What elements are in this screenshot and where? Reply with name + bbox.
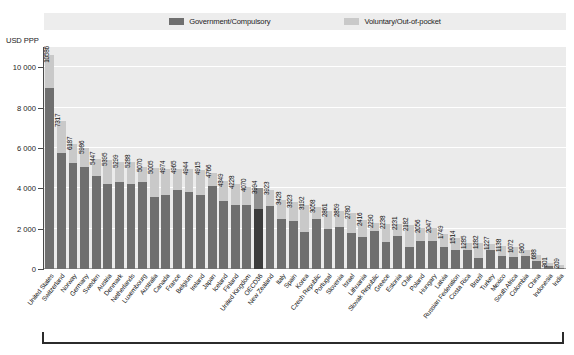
bar-column[interactable]: 3923	[264, 47, 276, 269]
bar-stack: 2290	[370, 223, 379, 269]
bar-column[interactable]: 209	[554, 47, 566, 269]
x-axis-label[interactable]: India	[552, 273, 566, 288]
bar-value-label: 2231	[391, 216, 397, 229]
bar-column[interactable]: 4070	[241, 47, 253, 269]
bar-column[interactable]: 7317	[56, 47, 68, 269]
bar-stack: 7317	[57, 121, 66, 269]
bar-stack: 4766	[208, 173, 217, 269]
bar-column[interactable]: 2780	[345, 47, 357, 269]
bar-column[interactable]: 4766	[206, 47, 218, 269]
bar-value-label: 2416	[356, 213, 362, 226]
bar-stack: 5070	[138, 167, 147, 269]
y-tick-label-6000: 6 000	[0, 143, 36, 152]
bar-column[interactable]: 4944	[183, 47, 195, 269]
bar-segment-government	[474, 258, 483, 269]
bar-stack: 5447	[92, 159, 101, 269]
bar-column[interactable]: 2231	[392, 47, 404, 269]
bar-column[interactable]: 301	[543, 47, 555, 269]
bar-column[interactable]: 2182	[403, 47, 415, 269]
bar-column[interactable]: 3323	[287, 47, 299, 269]
bar-column[interactable]: 1282	[473, 47, 485, 269]
bar-value-label: 5070	[136, 159, 142, 172]
bar-column[interactable]: 2416	[357, 47, 369, 269]
y-tick-mark-6000	[38, 148, 43, 149]
bar-value-label: 3192	[298, 197, 304, 210]
bar-column[interactable]: 2290	[369, 47, 381, 269]
bar-stack: 1138	[498, 246, 507, 269]
bar-value-label: 1285	[461, 235, 467, 248]
bar-stack: 4349	[219, 181, 228, 269]
bar-segment-government	[324, 229, 333, 269]
legend-item-voluntary[interactable]: Voluntary/Out-of-pocket	[344, 17, 440, 26]
bar-column[interactable]: 5288	[125, 47, 137, 269]
bar-column[interactable]: 960	[519, 47, 531, 269]
bar-value-label: 5986	[78, 140, 84, 153]
bar-value-label: 2047	[426, 220, 432, 233]
bar-column[interactable]: 688	[531, 47, 543, 269]
bar-column[interactable]: 2238	[380, 47, 392, 269]
bar-segment-government	[335, 227, 344, 269]
bar-segment-government	[509, 257, 518, 269]
bar-column[interactable]: 5005	[148, 47, 160, 269]
bar-segment-government	[103, 184, 112, 269]
bar-column[interactable]: 3994	[253, 47, 265, 269]
bar-value-label: 10586	[43, 46, 49, 63]
bar-column[interactable]: 4915	[195, 47, 207, 269]
bar-segment-government	[57, 153, 66, 269]
bar-value-label: 4944	[183, 162, 189, 175]
y-tick-mark-2000	[38, 229, 43, 230]
bar-stack: 4915	[196, 170, 205, 269]
bar-segment-government	[451, 250, 460, 269]
bar-column[interactable]: 4228	[230, 47, 242, 269]
bar-value-label: 3994	[252, 181, 258, 194]
bar-value-label: 2290	[368, 215, 374, 228]
bar-column[interactable]: 5070	[137, 47, 149, 269]
bar-value-label: 3923	[264, 182, 270, 195]
bar-stack: 2859	[335, 211, 344, 269]
bar-column[interactable]: 4965	[172, 47, 184, 269]
bar-value-label: 3323	[287, 194, 293, 207]
bar-segment-government	[173, 190, 182, 269]
bar-column[interactable]: 3058	[311, 47, 323, 269]
x-axis-labels: United StatesSwitzerlandNorwayGermanySwe…	[44, 271, 566, 333]
bar-column[interactable]: 1138	[496, 47, 508, 269]
bar-segment-government	[242, 205, 251, 269]
bar-column[interactable]: 10586	[44, 47, 56, 269]
legend-label-voluntary: Voluntary/Out-of-pocket	[364, 17, 440, 26]
bar-value-label: 2056	[414, 220, 420, 233]
bar-stack: 1749	[440, 234, 449, 269]
bar-value-label: 1072	[507, 240, 513, 253]
bar-segment-government	[161, 195, 170, 269]
bar-stack: 1227	[486, 244, 495, 269]
bar-stack: 4965	[173, 169, 182, 269]
bar-segment-government	[300, 232, 309, 269]
bar-column[interactable]: 3428	[276, 47, 288, 269]
bar-segment-government	[370, 231, 379, 269]
bar-segment-government	[382, 242, 391, 269]
bar-column[interactable]: 4974	[160, 47, 172, 269]
bar-segment-government	[393, 236, 402, 269]
bottom-frame-rule	[42, 342, 564, 344]
bar-segment-government	[115, 182, 124, 269]
y-tick-label-0: 0	[0, 265, 36, 274]
bar-column[interactable]: 2859	[334, 47, 346, 269]
bar-segment-government	[277, 219, 286, 269]
bar-column[interactable]: 2861	[322, 47, 334, 269]
bar-column[interactable]: 6187	[67, 47, 79, 269]
bar-column[interactable]: 2056	[415, 47, 427, 269]
bar-stack: 5005	[150, 168, 159, 269]
legend-swatch-voluntary	[344, 18, 359, 25]
bar-value-label: 4965	[171, 161, 177, 174]
bar-value-label: 1282	[472, 235, 478, 248]
bar-value-label: 4766	[206, 165, 212, 178]
bar-stack: 5395	[103, 160, 112, 269]
y-tick-label-10000: 10 000	[0, 63, 36, 72]
bottom-frame-left-tick	[42, 332, 44, 343]
bar-column[interactable]: 1072	[508, 47, 520, 269]
bar-column[interactable]: 3192	[299, 47, 311, 269]
bar-column[interactable]: 1227	[485, 47, 497, 269]
legend-item-government[interactable]: Government/Compulsory	[169, 17, 270, 26]
bar-segment-government	[185, 192, 194, 269]
bar-value-label: 5005	[148, 160, 154, 173]
bar-column[interactable]: 4349	[218, 47, 230, 269]
